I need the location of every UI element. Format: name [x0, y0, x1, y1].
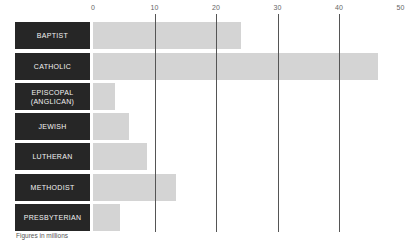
footnote: Figures in millions: [16, 232, 68, 239]
category-label: CATHOLIC: [15, 53, 90, 80]
x-tick-label: 10: [151, 4, 159, 11]
category-label: JEWISH: [15, 113, 90, 140]
category-label: EPISCOPAL (ANGLICAN): [15, 83, 90, 110]
bar: [93, 204, 120, 231]
category-label: PRESBYTERIAN: [15, 204, 90, 231]
bar: [93, 83, 115, 110]
x-tick-label: 20: [212, 4, 220, 11]
gridline: [155, 14, 156, 232]
bar: [93, 113, 129, 140]
category-label: BAPTIST: [15, 22, 90, 49]
x-tick-label: 50: [397, 4, 405, 11]
x-tick-label: 0: [91, 4, 95, 11]
category-label: LUTHERAN: [15, 143, 90, 170]
category-label: METHODIST: [15, 174, 90, 201]
bar: [93, 22, 241, 49]
bar: [93, 174, 176, 201]
bar: [93, 53, 378, 80]
gridline: [278, 14, 279, 232]
gridline: [339, 14, 340, 232]
bar: [93, 143, 147, 170]
x-tick-label: 40: [335, 4, 343, 11]
x-tick-label: 30: [274, 4, 282, 11]
gridline: [216, 14, 217, 232]
